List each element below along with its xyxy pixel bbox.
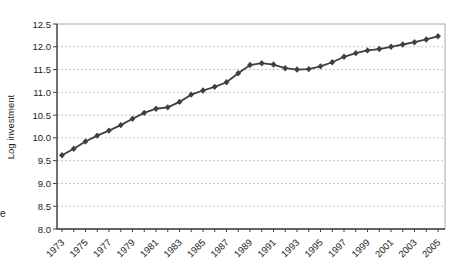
x-tick-label: 1989: [232, 237, 255, 260]
data-point-marker: [106, 127, 112, 133]
data-point-marker: [365, 47, 371, 53]
x-tick-label: 2005: [420, 237, 443, 260]
x-tick-label: 1991: [255, 237, 278, 260]
x-tick-label: 1985: [185, 237, 208, 260]
data-point-marker: [341, 54, 347, 60]
x-tick-label: 1995: [302, 237, 325, 260]
log-investment-chart: Log investment 8.08.59.09.510.010.511.01…: [0, 0, 457, 279]
data-point-marker: [353, 50, 359, 56]
y-tick-label: 10.0: [33, 132, 52, 143]
x-tick-label: 1979: [114, 237, 137, 260]
data-point-marker: [118, 122, 124, 128]
x-tick-label: 1997: [326, 237, 349, 260]
chart-frame: [57, 24, 445, 229]
x-tick-label: 1987: [208, 237, 231, 260]
y-axis-title: Log investment: [5, 94, 16, 159]
data-point-marker: [282, 65, 288, 71]
data-point-marker: [59, 152, 65, 158]
x-tick-label: 1981: [138, 237, 161, 260]
data-point-marker: [94, 132, 100, 138]
chart-svg: Log investment 8.08.59.09.510.010.511.01…: [0, 0, 457, 279]
data-point-marker: [400, 41, 406, 47]
x-tick-label: 1999: [349, 237, 372, 260]
data-point-marker: [259, 60, 265, 66]
data-point-marker: [412, 39, 418, 45]
data-line: [62, 36, 438, 155]
x-tick-label: 1993: [279, 237, 302, 260]
x-tick-label: 1975: [67, 237, 90, 260]
y-tick-label: 8.0: [38, 224, 51, 235]
data-point-marker: [306, 66, 312, 72]
x-tick-label: 1983: [161, 237, 184, 260]
data-point-marker: [294, 66, 300, 72]
x-tick-label: 1973: [44, 237, 67, 260]
y-tick-label: 11.0: [33, 87, 51, 98]
data-point-marker: [423, 36, 429, 42]
x-tick-label: 2001: [373, 237, 396, 260]
x-tick-label: 2003: [396, 237, 419, 260]
data-point-marker: [271, 61, 277, 67]
x-tick-label: 1977: [91, 237, 114, 260]
y-tick-label: 9.5: [38, 155, 51, 166]
y-tick-label: 10.5: [33, 110, 52, 121]
data-point-marker: [318, 63, 324, 69]
y-tick-label: 12.0: [33, 41, 52, 52]
data-point-marker: [329, 59, 335, 65]
y-tick-label: 12.5: [33, 19, 52, 30]
data-point-marker: [130, 116, 136, 122]
data-point-marker: [388, 44, 394, 50]
y-tick-label: 9.0: [38, 178, 51, 189]
data-point-marker: [435, 33, 441, 39]
y-tick-label: 8.5: [38, 201, 51, 212]
data-point-marker: [212, 84, 218, 90]
data-point-marker: [153, 106, 159, 112]
y-tick-label: 11.5: [33, 64, 51, 75]
data-point-marker: [165, 104, 171, 110]
